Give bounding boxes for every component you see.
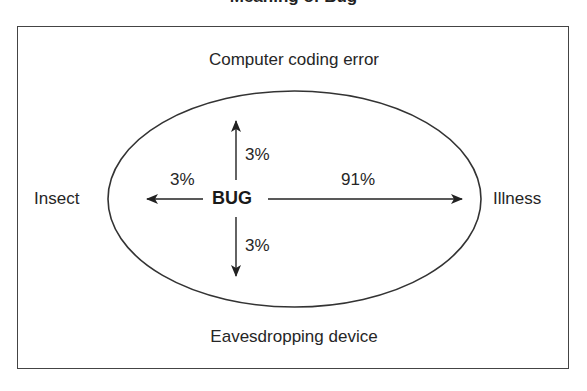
percent-up: 3% [245,145,270,165]
percent-right: 91% [341,170,375,190]
percent-down: 3% [245,236,270,256]
label-computer-coding-error: Computer coding error [209,50,379,70]
label-illness: Illness [493,189,541,209]
center-label-bug: BUG [212,188,252,209]
label-eavesdropping-device: Eavesdropping device [210,327,377,347]
label-insect: Insect [34,189,79,209]
percent-left: 3% [170,170,195,190]
